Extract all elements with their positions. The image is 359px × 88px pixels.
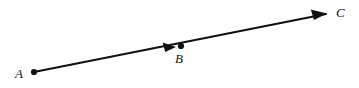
geometry-figure: A B C [0, 0, 359, 88]
point-label-c: C [336, 6, 345, 19]
point-label-a: A [15, 67, 23, 80]
point-marker-a [31, 69, 37, 75]
ray-diagram-canvas [0, 0, 359, 88]
point-marker-b [178, 43, 184, 49]
point-label-b: B [175, 52, 183, 65]
